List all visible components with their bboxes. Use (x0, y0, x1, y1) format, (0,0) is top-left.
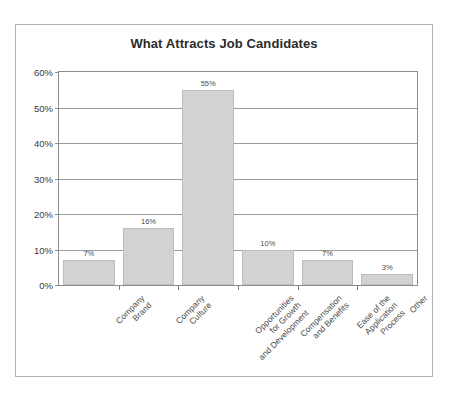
bar-value-label: 16% (119, 217, 179, 226)
x-axis-category-label: CompanyCulture (173, 293, 213, 333)
y-axis-tick-label: 50% (34, 102, 53, 113)
bar[interactable] (123, 228, 175, 285)
bar-value-label: 7% (59, 249, 119, 258)
x-axis-category-label: Compensationand Benefits (298, 293, 351, 346)
x-axis-tick-mark (238, 285, 239, 290)
x-axis-tick-mark (119, 285, 120, 290)
bar-slot: 3% (357, 72, 417, 285)
bar-value-label: 55% (178, 79, 238, 88)
chart-title: What Attracts Job Candidates (16, 36, 432, 51)
x-axis-tick-mark (298, 285, 299, 290)
bar[interactable] (182, 90, 234, 285)
y-axis-tick-label: 40% (34, 138, 53, 149)
bar-slot: 10% (238, 72, 298, 285)
x-axis-category-label: Other (407, 293, 429, 315)
bar-value-label: 3% (357, 263, 417, 272)
bar-value-label: 10% (238, 239, 298, 248)
bar-slot: 7% (298, 72, 358, 285)
y-axis-tick-label: 0% (39, 280, 53, 291)
x-axis-category-label: Ease of theApplicationProcess (354, 293, 406, 345)
bar[interactable] (302, 260, 354, 285)
y-axis-tick-label: 30% (34, 173, 53, 184)
category-label-line: Other (407, 293, 429, 315)
bar-slot: 16% (119, 72, 179, 285)
bar[interactable] (361, 274, 413, 285)
bar[interactable] (242, 250, 294, 286)
bar-slot: 7% (59, 72, 119, 285)
chart-card: What Attracts Job Candidates 0%10%20%30%… (15, 24, 433, 377)
plot-area: 0%10%20%30%40%50%60%7%CompanyBrand16%Com… (58, 71, 418, 286)
y-axis-tick-label: 10% (34, 244, 53, 255)
bar-value-label: 7% (298, 249, 358, 258)
y-axis-tick-label: 60% (34, 67, 53, 78)
bar[interactable] (63, 260, 115, 285)
y-axis-tick-mark (55, 285, 59, 286)
y-axis-tick-label: 20% (34, 209, 53, 220)
bar-slot: 55% (178, 72, 238, 285)
x-axis-tick-mark (357, 285, 358, 290)
x-axis-category-label: CompanyBrand (113, 293, 153, 333)
x-axis-tick-mark (178, 285, 179, 290)
